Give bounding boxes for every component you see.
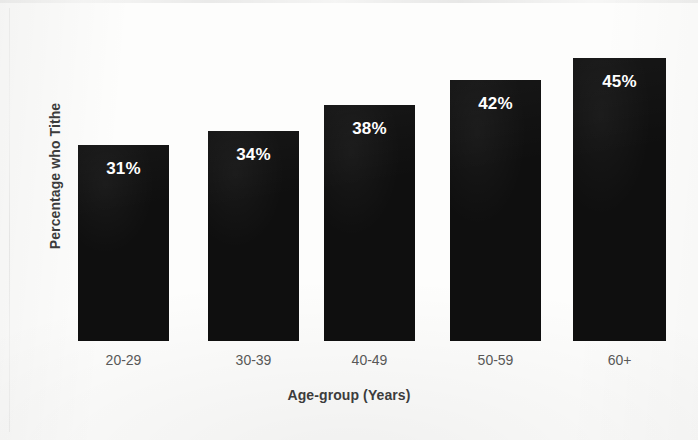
bar: 42%: [450, 80, 541, 341]
x-axis-tick-label: 20-29: [78, 352, 169, 368]
bar: 31%: [78, 145, 169, 341]
bar-chart-figure: Percentage who Tithe 31%34%38%42%45% 20-…: [0, 0, 698, 440]
bar: 34%: [208, 131, 299, 341]
bar: 38%: [324, 105, 415, 341]
bar-value-label: 31%: [78, 159, 169, 179]
bar-value-label: 45%: [573, 72, 666, 92]
x-axis-tick-label: 50-59: [450, 352, 541, 368]
bar-value-label: 34%: [208, 145, 299, 165]
bar: 45%: [573, 58, 666, 341]
x-axis-title: Age-group (Years): [0, 387, 698, 403]
bar-value-label: 42%: [450, 94, 541, 114]
x-axis-tick-label: 60+: [573, 352, 666, 368]
x-axis-tick-label: 30-39: [208, 352, 299, 368]
plot-area: 31%34%38%42%45%: [0, 0, 698, 341]
bar-value-label: 38%: [324, 119, 415, 139]
x-axis-tick-label: 40-49: [324, 352, 415, 368]
